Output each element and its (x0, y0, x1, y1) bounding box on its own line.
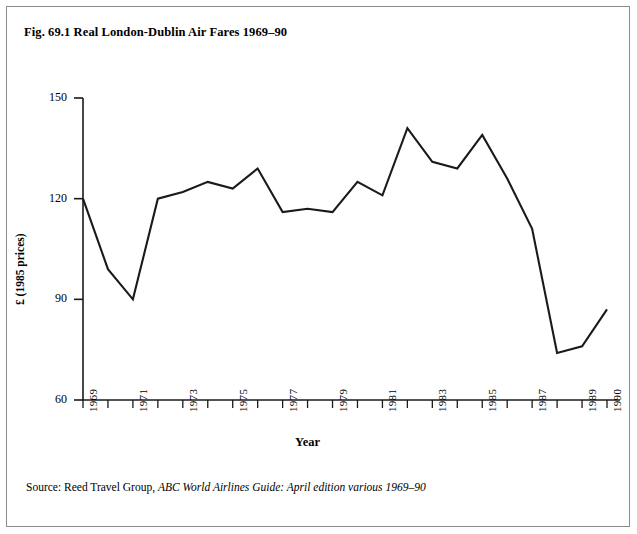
y-axis-tick-label: 150 (27, 90, 67, 105)
y-axis-title: £ (1985 prices) (14, 233, 26, 305)
y-axis-ticks (74, 98, 83, 400)
x-axis-tick-label: 1973 (187, 389, 199, 412)
x-axis-title: Year (295, 435, 320, 450)
x-axis-tick-label: 1990 (611, 389, 623, 412)
x-axis-tick-label: 1977 (287, 389, 299, 412)
source-citation: ABC World Airlines Guide: April edition … (158, 481, 426, 493)
y-axis-tick-label: 60 (27, 392, 67, 407)
y-axis-tick-label: 90 (27, 291, 67, 306)
chart-svg (0, 0, 637, 534)
x-axis-tick-label: 1969 (87, 389, 99, 412)
x-axis-tick-label: 1987 (536, 389, 548, 412)
figure-source: Source: Reed Travel Group, ABC World Air… (26, 481, 426, 493)
x-axis-tick-label: 1985 (486, 389, 498, 412)
x-axis-tick-label: 1989 (586, 389, 598, 412)
x-axis-tick-label: 1983 (436, 389, 448, 412)
x-axis-tick-label: 1975 (237, 389, 249, 412)
chart-axes (83, 98, 620, 400)
x-axis-tick-label: 1971 (137, 389, 149, 412)
y-axis-tick-label: 120 (27, 191, 67, 206)
x-axis-tick-label: 1981 (386, 389, 398, 412)
x-axis-tick-label: 1979 (337, 389, 349, 412)
chart-plot-area: 6090120150 19691971197319751977197919811… (0, 0, 637, 534)
source-prefix: Source: Reed Travel Group, (26, 481, 158, 493)
data-series-line (83, 128, 607, 353)
